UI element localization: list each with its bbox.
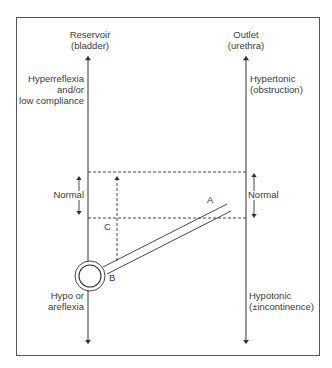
label-line: (±incontinence) bbox=[249, 301, 329, 312]
marker-c: C bbox=[104, 221, 111, 232]
label-line: Hypertonic bbox=[250, 73, 325, 84]
pointer-stem-bottom bbox=[107, 211, 231, 274]
normal-left-label: Normal bbox=[20, 189, 84, 200]
outlet-title-text: Outlet bbox=[196, 29, 296, 40]
hyperreflexia-label: Hyperreflexia and/or low compliance bbox=[10, 73, 84, 106]
label-line: Hypotonic bbox=[249, 290, 329, 301]
diagram-canvas bbox=[0, 0, 332, 368]
reservoir-title-text: Reservoir bbox=[40, 29, 140, 40]
label-line: Hypo or bbox=[10, 290, 84, 301]
pointer-stem-top bbox=[103, 204, 227, 267]
reservoir-subtitle-text: (bladder) bbox=[40, 40, 140, 51]
label-line: Hyperreflexia bbox=[10, 73, 84, 84]
outlet-subtitle-text: (urethra) bbox=[196, 40, 296, 51]
reservoir-title: Reservoir (bladder) bbox=[40, 29, 140, 51]
label-line: low compliance bbox=[10, 95, 84, 106]
gauge-inner-circle bbox=[79, 265, 101, 287]
hypotonic-label: Hypotonic (±incontinence) bbox=[249, 290, 329, 312]
marker-a: A bbox=[207, 194, 213, 205]
label-line: areflexia bbox=[10, 301, 84, 312]
label-line: and/or bbox=[10, 84, 84, 95]
hypo-areflexia-label: Hypo or areflexia bbox=[10, 290, 84, 312]
label-line: (obstruction) bbox=[250, 84, 325, 95]
outlet-title: Outlet (urethra) bbox=[196, 29, 296, 51]
normal-right-label: Normal bbox=[248, 189, 298, 200]
marker-b: B bbox=[109, 272, 115, 283]
hypertonic-label: Hypertonic (obstruction) bbox=[250, 73, 325, 95]
